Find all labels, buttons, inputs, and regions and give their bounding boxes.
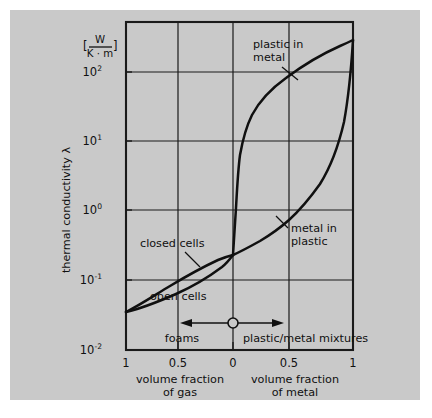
annotation-plastic-in-metal: plastic in metal: [253, 38, 303, 80]
figure-panel: 102 101 100 10-1 10-2 [ W K · m ] therma…: [10, 10, 420, 400]
ytick-label-1e1-exp: 1: [97, 133, 102, 142]
annotation-closed-cells-label: closed cells: [140, 237, 205, 250]
unit-bracket-close: ]: [113, 39, 118, 53]
region-label-mixtures: plastic/metal mixtures: [243, 332, 368, 345]
ytick-label-1e-2-exp: -2: [94, 342, 102, 351]
ytick-label-1e2-exp: 2: [97, 64, 102, 73]
ytick-label-1e-1-exp: -1: [94, 272, 102, 281]
y-axis-title: thermal conductivity λ: [60, 147, 73, 273]
xtick-label-gas-1: 1: [122, 356, 129, 370]
xtick-label-metal-1: 1: [349, 356, 356, 370]
svg-text:101: 101: [83, 133, 103, 148]
region-divider: foams plastic/metal mixtures: [165, 318, 369, 345]
x-axis-title-right-line1: volume fraction: [251, 373, 339, 386]
x-axis-title-left-line2: of gas: [163, 386, 197, 399]
svg-text:10-2: 10-2: [80, 342, 102, 357]
annotation-open-cells-label: open cells: [150, 290, 207, 303]
x-axis-title-right: volume fraction of metal: [251, 373, 339, 399]
xtick-label-metal-0p5: 0.5: [280, 356, 298, 370]
annotation-plastic-in-metal-line2: metal: [253, 51, 285, 64]
curve-closed-cells: [126, 255, 233, 312]
xtick-label-zero: 0: [229, 356, 236, 370]
ytick-label-1e2-base: 10: [83, 65, 98, 79]
annotation-closed-cells-leader: [185, 252, 200, 267]
svg-text:102: 102: [83, 64, 103, 79]
ytick-label-1e-1-base: 10: [80, 273, 95, 287]
y-unit-label: [ W K · m ]: [83, 34, 118, 59]
xtick-label-gas-0p5: 0.5: [169, 356, 187, 370]
x-axis-title-left-line1: volume fraction: [136, 373, 224, 386]
svg-text:10-1: 10-1: [80, 272, 102, 287]
svg-text:100: 100: [83, 202, 103, 217]
ytick-label-1e-2-base: 10: [80, 343, 95, 357]
y-tick-labels: 102 101 100 10-1 10-2: [80, 64, 102, 357]
annotation-plastic-in-metal-line1: plastic in: [253, 38, 303, 51]
ytick-label-1e1-base: 10: [83, 134, 98, 148]
curve-plastic-in-metal: [126, 40, 353, 312]
region-arrow-right-head: [272, 319, 284, 327]
x-axis-title-left: volume fraction of gas: [136, 373, 224, 399]
region-pivot-circle: [228, 318, 238, 328]
annotation-closed-cells: closed cells: [140, 237, 205, 267]
unit-numerator: W: [95, 34, 105, 45]
unit-denominator: K · m: [87, 48, 113, 59]
annotation-metal-in-plastic-line2: plastic: [291, 235, 328, 248]
ytick-label-1e0-base: 10: [83, 203, 98, 217]
ytick-label-1e0-exp: 0: [97, 202, 102, 211]
annotation-metal-in-plastic-line1: metal in: [291, 222, 337, 235]
annotation-metal-in-plastic: metal in plastic: [276, 216, 337, 248]
annotation-open-cells: open cells: [150, 290, 207, 303]
x-tick-labels: 1 0.5 0 0.5 1: [122, 356, 356, 370]
x-axis-title-right-line2: of metal: [272, 386, 318, 399]
region-label-foams: foams: [165, 332, 200, 345]
thermal-conductivity-chart: 102 101 100 10-1 10-2 [ W K · m ] therma…: [10, 10, 420, 400]
region-arrow-left-head: [180, 319, 192, 327]
